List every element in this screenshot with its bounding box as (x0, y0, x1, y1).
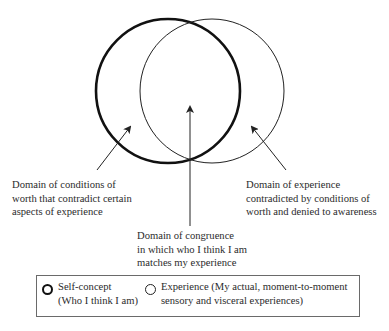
thick-circle-icon (42, 284, 53, 295)
legend-line: Self-concept (58, 280, 138, 294)
legend-line: Experience (My actual, moment-to-moment (161, 280, 348, 294)
label-line: Domain of congruence (137, 229, 247, 243)
legend-text: Experience (My actual, moment-to-moment … (161, 280, 348, 307)
self-concept-circle (96, 19, 240, 163)
label-line: worth and denied to awareness (246, 205, 377, 219)
right-domain-label: Domain of experience contradicted by con… (246, 178, 377, 219)
legend: Self-concept (Who I think I am) Experien… (36, 275, 360, 317)
right-arrow (252, 127, 286, 170)
label-line: worth that contradict certain (12, 192, 132, 206)
legend-item-self-concept: Self-concept (Who I think I am) (42, 280, 138, 307)
label-line: contradicted by conditions of (246, 192, 377, 206)
label-line: in which who I think I am (137, 243, 247, 257)
legend-line: sensory and visceral experiences) (161, 294, 348, 308)
center-domain-label: Domain of congruence in which who I thin… (137, 229, 247, 270)
label-line: Domain of experience (246, 178, 377, 192)
label-line: Domain of conditions of (12, 178, 132, 192)
legend-text: Self-concept (Who I think I am) (58, 280, 138, 307)
label-line: matches my experience (137, 256, 247, 270)
label-line: aspects of experience (12, 205, 132, 219)
legend-line: (Who I think I am) (58, 294, 138, 308)
experience-circle (140, 19, 284, 163)
legend-item-experience: Experience (My actual, moment-to-moment … (145, 280, 348, 307)
left-domain-label: Domain of conditions of worth that contr… (12, 178, 132, 219)
thin-circle-icon (145, 284, 156, 295)
